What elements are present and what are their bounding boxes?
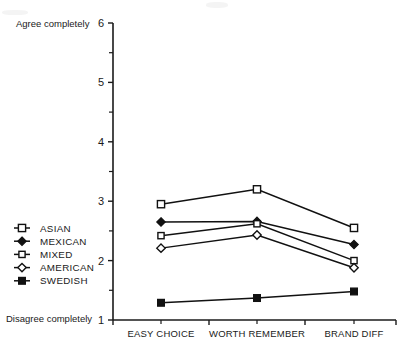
y-axis-tick-label: 5 <box>98 76 104 88</box>
legend-marker-american <box>18 263 26 271</box>
legend-label-mixed: MIXED <box>40 249 73 260</box>
data-point-swedish-2 <box>254 295 261 302</box>
data-point-american-2 <box>253 231 261 239</box>
data-point-asian-3 <box>350 224 357 231</box>
data-point-mixed-2 <box>254 221 260 227</box>
data-point-asian-1 <box>157 201 164 208</box>
data-point-swedish-1 <box>158 299 165 306</box>
scale-top-label: Agree completely <box>16 18 90 29</box>
y-axis-tick-label: 3 <box>98 195 104 207</box>
legend-label-mexican: MEXICAN <box>40 236 87 247</box>
data-point-mexican-1 <box>157 218 165 226</box>
y-axis-tick-label: 2 <box>98 255 104 267</box>
chart-container: 123456EASY CHOICEWORTH REMEMBERBRAND DIF… <box>0 0 415 344</box>
legend-marker-mixed <box>19 251 25 257</box>
y-axis-tick-label: 4 <box>98 136 104 148</box>
scale-bottom-label: Disagree completely <box>6 313 92 324</box>
data-point-mexican-3 <box>350 240 358 248</box>
line-chart: 123456EASY CHOICEWORTH REMEMBERBRAND DIF… <box>0 0 415 344</box>
y-axis-tick-label: 1 <box>98 314 104 326</box>
legend-marker-swedish <box>19 277 26 284</box>
x-axis-tick-label-3: BRAND DIFF <box>325 328 384 339</box>
data-point-mixed-1 <box>158 233 164 239</box>
series-line-american <box>161 235 354 268</box>
legend-label-american: AMERICAN <box>40 262 94 273</box>
data-point-american-3 <box>350 264 358 272</box>
legend-label-asian: ASIAN <box>40 223 71 234</box>
legend-marker-mexican <box>18 237 26 245</box>
series-line-mixed <box>161 224 354 261</box>
data-point-american-1 <box>157 244 165 252</box>
y-axis-tick-label: 6 <box>98 17 104 29</box>
data-point-swedish-3 <box>351 288 358 295</box>
data-point-asian-2 <box>253 186 260 193</box>
x-axis-tick-label-2: WORTH REMEMBER <box>209 328 305 339</box>
legend-marker-asian <box>18 224 25 231</box>
x-axis-tick-label-1: EASY CHOICE <box>128 328 195 339</box>
legend-label-swedish: SWEDISH <box>40 275 88 286</box>
